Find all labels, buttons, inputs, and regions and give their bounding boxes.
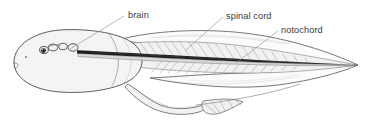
label-notochord: notochord <box>281 25 323 35</box>
hind-limb <box>125 84 215 114</box>
nostril-dot <box>25 56 27 58</box>
figure-root: Tadpole (amphibian larva) lateral view <box>0 0 372 125</box>
label-brain: brain <box>128 10 149 20</box>
label-spinal-cord: spinal cord <box>226 11 272 21</box>
brain-vesicle-midbrain <box>59 43 67 49</box>
eye-pupil <box>41 48 46 53</box>
tadpole-anatomy-diagram: Tadpole (amphibian larva) lateral view <box>0 0 372 125</box>
hind-limb-group <box>125 84 300 114</box>
head-and-trunk <box>14 30 142 93</box>
eye-highlight <box>42 49 43 50</box>
